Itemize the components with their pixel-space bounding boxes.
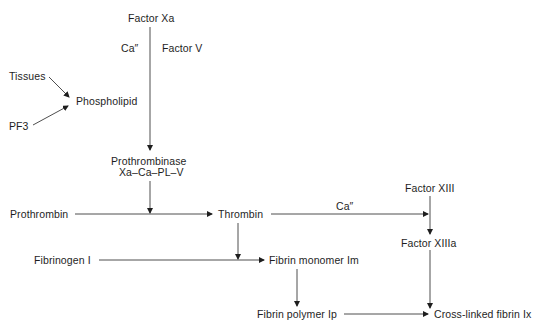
label-ca-ions-1: Ca″ bbox=[121, 42, 138, 54]
node-phospholipid: Phospholipid bbox=[76, 95, 137, 107]
arrow-pf3-to-phospholipid bbox=[33, 106, 68, 125]
node-fibrin-polymer: Fibrin polymer Ip bbox=[257, 308, 337, 320]
node-prothrombin: Prothrombin bbox=[10, 208, 68, 220]
node-prothrombinase-complex: Xa–Ca–PL–V bbox=[119, 166, 184, 178]
node-tissues: Tissues bbox=[9, 70, 46, 82]
arrow-tissues-to-phospholipid bbox=[49, 77, 69, 97]
node-factor-xiiia: Factor XIIIa bbox=[401, 237, 456, 249]
node-pf3: PF3 bbox=[9, 120, 29, 132]
node-thrombin: Thrombin bbox=[218, 208, 263, 220]
node-factor-xiii: Factor XIII bbox=[405, 182, 455, 194]
node-fibrinogen: Fibrinogen I bbox=[34, 254, 91, 266]
label-ca-ions-2: Ca″ bbox=[336, 200, 353, 212]
connector-arrows bbox=[0, 0, 544, 329]
node-fibrin-monomer: Fibrin monomer Im bbox=[269, 254, 359, 266]
node-factor-v: Factor V bbox=[162, 42, 202, 54]
node-factor-xa: Factor Xa bbox=[128, 12, 174, 24]
node-cross-linked-fibrin: Cross-linked fibrin Ix bbox=[434, 308, 531, 320]
coagulation-cascade-diagram: Factor Xa Ca″ Factor V Tissues Phospholi… bbox=[0, 0, 544, 329]
